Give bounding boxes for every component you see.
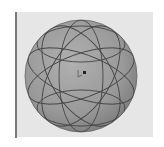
sphere (25, 20, 137, 132)
sphere-render[interactable] (0, 0, 164, 147)
